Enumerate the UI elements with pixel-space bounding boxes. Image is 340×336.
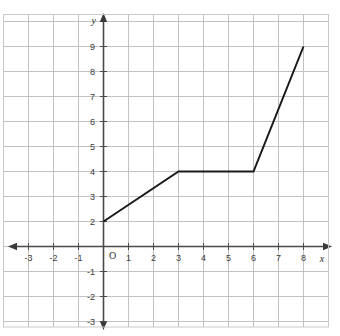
y-tick-label: 7 bbox=[90, 92, 95, 102]
canvas-background bbox=[0, 0, 340, 336]
x-tick-label: 5 bbox=[226, 253, 231, 263]
origin-label: O bbox=[109, 250, 116, 261]
y-tick-label: 6 bbox=[90, 117, 95, 127]
y-tick-label: -2 bbox=[87, 292, 95, 302]
x-tick-label: 3 bbox=[176, 253, 181, 263]
y-tick-label: -3 bbox=[87, 317, 95, 327]
x-tick-label: 4 bbox=[201, 253, 206, 263]
x-tick-label: -2 bbox=[49, 253, 57, 263]
graph-svg: -3 -2 -1 1 2 3 4 5 6 7 8 9 8 7 6 5 4 3 2… bbox=[0, 0, 340, 336]
y-tick-label: 3 bbox=[90, 192, 95, 202]
y-tick-label: 9 bbox=[90, 42, 95, 52]
y-tick-label: 2 bbox=[90, 217, 95, 227]
x-tick-label: 7 bbox=[276, 253, 281, 263]
x-axis-label: x bbox=[319, 253, 325, 264]
x-tick-label: 2 bbox=[151, 253, 156, 263]
x-tick-label: 6 bbox=[251, 253, 256, 263]
y-tick-label: 5 bbox=[90, 142, 95, 152]
y-axis-label: y bbox=[91, 15, 97, 26]
x-tick-label: -3 bbox=[24, 253, 32, 263]
x-tick-label: -1 bbox=[74, 253, 82, 263]
y-tick-label: 8 bbox=[90, 67, 95, 77]
x-tick-label: 1 bbox=[126, 253, 131, 263]
coordinate-graph: -3 -2 -1 1 2 3 4 5 6 7 8 9 8 7 6 5 4 3 2… bbox=[0, 0, 340, 336]
y-tick-label: -1 bbox=[87, 267, 95, 277]
y-tick-label: 4 bbox=[90, 167, 95, 177]
x-tick-label: 8 bbox=[301, 253, 306, 263]
